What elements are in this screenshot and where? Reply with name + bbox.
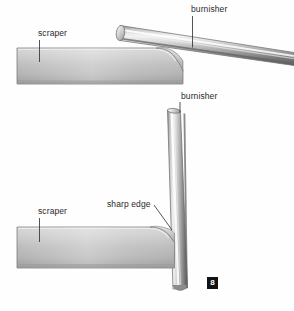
figure-number-badge: 8 — [207, 277, 218, 289]
label-scraper-top: scraper — [38, 29, 67, 38]
label-burnisher-top: burnisher — [191, 5, 227, 14]
label-scraper-bottom: scraper — [38, 207, 67, 216]
top-scraper-blade — [17, 48, 183, 84]
top-panel-artwork — [17, 16, 294, 84]
bottom-scraper-blade — [17, 227, 175, 268]
label-sharp-edge: sharp edge — [107, 200, 151, 209]
technical-illustration-figure: burnisher scraper burnisher sharp edge s… — [0, 0, 294, 311]
label-burnisher-bottom: burnisher — [181, 92, 217, 101]
bottom-panel-artwork — [17, 102, 188, 290]
figure-artwork — [0, 0, 294, 311]
